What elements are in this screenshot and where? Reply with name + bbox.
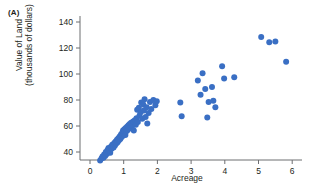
data-point	[272, 39, 278, 45]
data-point	[177, 100, 183, 106]
y-tick-label: 60	[64, 121, 74, 131]
x-tick-label: 4	[222, 166, 227, 176]
data-point	[202, 86, 208, 92]
data-points	[97, 34, 289, 164]
data-point	[210, 98, 216, 104]
data-point	[231, 74, 237, 80]
y-tick-label: 100	[59, 69, 73, 79]
x-axis: 0123456	[80, 160, 302, 176]
x-tick-label: 1	[121, 166, 126, 176]
data-point	[219, 63, 225, 69]
data-point	[144, 120, 150, 126]
data-point	[283, 59, 289, 65]
x-tick-label: 5	[256, 166, 261, 176]
data-point	[209, 84, 215, 90]
x-tick-label: 3	[189, 166, 194, 176]
data-point	[221, 76, 227, 82]
data-point	[198, 92, 204, 98]
data-point	[179, 113, 185, 119]
y-tick-label: 140	[59, 17, 73, 27]
data-point	[131, 128, 137, 134]
y-tick-label: 80	[64, 95, 74, 105]
y-tick-label: 40	[64, 147, 74, 157]
data-point	[142, 96, 148, 102]
y-tick-label: 120	[59, 43, 73, 53]
x-tick-label: 0	[88, 166, 93, 176]
data-point	[258, 34, 264, 40]
data-point	[266, 39, 272, 45]
data-point	[212, 104, 218, 110]
x-tick-label: 2	[155, 166, 160, 176]
data-point	[154, 98, 160, 104]
scatter-plot-figure: (A) Value of Land (thousands of dollars)…	[0, 0, 312, 191]
data-point	[204, 115, 210, 121]
plot-area: 406080100120140 0123456	[0, 0, 312, 191]
data-point	[195, 78, 201, 84]
data-point	[200, 70, 206, 76]
y-axis: 406080100120140	[59, 16, 80, 160]
x-tick-label: 6	[290, 166, 295, 176]
